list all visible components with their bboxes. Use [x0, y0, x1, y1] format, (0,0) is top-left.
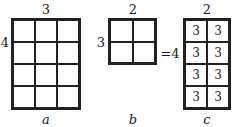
grid-cell: [35, 64, 57, 86]
grid-cell: 3: [207, 42, 229, 64]
grid-cell: 3: [185, 20, 207, 42]
grid-cell: [57, 20, 79, 42]
grid-cell: 3: [185, 86, 207, 108]
grid-cell: [35, 20, 57, 42]
grid-cell: 3: [185, 42, 207, 64]
figure-a-grid: [11, 18, 81, 110]
grid-cell: [57, 42, 79, 64]
figure-b-side-label: 3: [96, 36, 106, 49]
grid-cell: [13, 20, 35, 42]
grid-cell: [13, 42, 35, 64]
equals-label: =4: [158, 47, 182, 60]
grid-cell: [35, 86, 57, 108]
figure-a-top-label: 3: [38, 3, 54, 16]
grid-cell: [13, 86, 35, 108]
grid-cell: [110, 42, 133, 64]
figure-c-caption: c: [199, 113, 215, 126]
figure-b-grid: [108, 18, 157, 65]
grid-cell: 3: [185, 64, 207, 86]
figure-c-grid: 33 33 33 33: [183, 18, 231, 110]
figure-b-caption: b: [125, 113, 141, 126]
figure-b-top-label: 2: [125, 3, 141, 16]
grid-cell: [110, 20, 133, 42]
grid-cell: [35, 42, 57, 64]
grid-cell: 3: [207, 86, 229, 108]
grid-cell: [133, 42, 156, 64]
grid-cell: [57, 86, 79, 108]
grid-cell: [57, 64, 79, 86]
figure-c-top-label: 2: [199, 3, 215, 16]
grid-cell: 3: [207, 20, 229, 42]
figure-a-side-label: 4: [0, 36, 10, 49]
grid-cell: 3: [207, 64, 229, 86]
grid-cell: [13, 64, 35, 86]
grid-cell: [133, 20, 156, 42]
figure-a-caption: a: [38, 113, 54, 126]
